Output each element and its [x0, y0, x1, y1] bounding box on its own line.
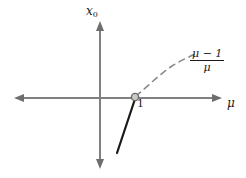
solid-stable-branch-line [117, 99, 135, 153]
y-axis-label-base: x [86, 4, 93, 18]
diagram-canvas [0, 0, 246, 178]
x-axis-right-arrowhead [212, 94, 222, 102]
y-axis-label: x0 [86, 5, 98, 17]
y-axis-group [96, 21, 104, 169]
y-axis-bottom-arrowhead [96, 159, 104, 169]
x-axis-label: μ [227, 97, 235, 109]
curve-equation-label: μ − 1 μ [190, 48, 224, 73]
bifurcation-diagram-figure: x0 μ 1 μ − 1 μ [0, 0, 246, 178]
x-axis-left-arrowhead [14, 94, 24, 102]
curve-equation-denominator: μ [190, 61, 224, 73]
x-axis-group [14, 94, 222, 102]
y-axis-top-arrowhead [96, 21, 104, 31]
bifurcation-point-label: 1 [137, 98, 144, 109]
dashed-unstable-branch-curve [136, 54, 196, 96]
curve-equation-numerator: μ − 1 [190, 48, 224, 61]
y-axis-label-subscript: 0 [93, 10, 98, 19]
